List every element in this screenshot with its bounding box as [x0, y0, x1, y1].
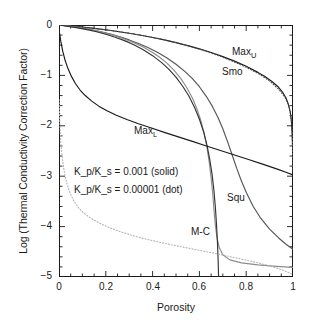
chart-figure: Log (Thermal Conductivity Correction Fac…	[0, 0, 322, 329]
y-tick-label-2: −2	[28, 119, 52, 130]
x-axis-title: Porosity	[59, 301, 293, 313]
y-tick-label-4: −4	[28, 220, 52, 231]
series-max-l	[59, 30, 293, 175]
plot-area	[59, 25, 293, 277]
x-tick-label-5: 1	[278, 281, 308, 292]
annotation-max-l: MaxL	[134, 125, 157, 139]
annotation-smo-label: Smo	[222, 66, 243, 77]
plot-svg	[59, 25, 293, 277]
y-tick-label-5: −5	[28, 270, 52, 281]
x-tick-label-2: 0.4	[138, 281, 168, 292]
x-tick-label-4: 0.8	[231, 281, 261, 292]
x-tick-label-1: 0.2	[91, 281, 121, 292]
annotation-mc-label: M-C	[191, 226, 210, 237]
annotation-max-l-label: Max	[134, 125, 153, 136]
annotation-max-u: MaxU	[232, 46, 256, 60]
note-k-ratio-solid: K_p/K_s = 0.001 (solid)	[74, 166, 178, 177]
annotation-max-l-sub: L	[153, 130, 157, 139]
series-smo	[59, 25, 293, 249]
annotation-squ-label: Squ	[227, 192, 245, 203]
note-k-ratio-dot: K_p/K_s = 0.00001 (dot)	[74, 184, 183, 195]
x-tick-label-0: 0	[44, 281, 74, 292]
series-m-c	[59, 25, 219, 277]
annotation-smo: Smo	[222, 66, 243, 77]
x-tick-label-3: 0.6	[184, 281, 214, 292]
series-max-u	[59, 25, 293, 174]
annotation-max-u-label: Max	[232, 46, 251, 57]
series-squ	[59, 25, 293, 267]
note-k-ratio-dot-text: K_p/K_s = 0.00001 (dot)	[74, 184, 183, 195]
note-k-ratio-solid-text: K_p/K_s = 0.001 (solid)	[74, 166, 178, 177]
y-tick-label-0: 0	[28, 19, 52, 30]
y-tick-label-3: −3	[28, 170, 52, 181]
series-max-u-dotted	[59, 25, 293, 174]
y-axis-title: Log (Thermal Conductivity Correction Fac…	[17, 21, 35, 281]
annotation-squ: Squ	[227, 192, 245, 203]
annotation-max-u-sub: U	[251, 51, 256, 60]
y-tick-label-1: −1	[28, 69, 52, 80]
annotation-mc: M-C	[191, 226, 210, 237]
